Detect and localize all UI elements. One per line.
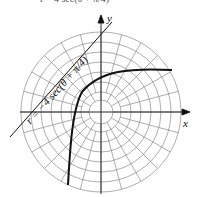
x-axis-label: x	[183, 117, 188, 129]
polar-graph	[0, 0, 200, 197]
y-axis-label: y	[107, 12, 112, 24]
